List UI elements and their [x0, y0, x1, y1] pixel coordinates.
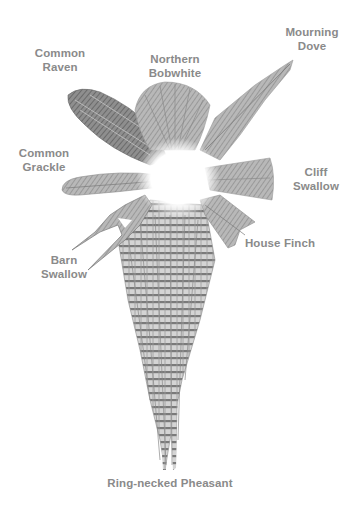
label-line: Ring-necked Pheasant [100, 476, 240, 490]
label-line: Grackle [14, 160, 74, 174]
label-common-raven: Common Raven [30, 46, 90, 74]
label-cliff-swallow: Cliff Swallow [286, 165, 346, 193]
label-line: Raven [30, 60, 90, 74]
ring-necked-pheasant-feather [118, 200, 215, 470]
label-line: Barn [34, 253, 94, 267]
label-barn-swallow: Barn Swallow [34, 253, 94, 281]
label-line: Cliff [286, 165, 346, 179]
label-northern-bobwhite: Northern Bobwhite [143, 52, 207, 80]
label-line: Mourning [280, 25, 344, 39]
label-ring-necked-pheasant: Ring-necked Pheasant [100, 476, 240, 490]
center-highlight [136, 138, 220, 218]
label-mourning-dove: Mourning Dove [280, 25, 344, 53]
label-house-finch: House Finch [240, 236, 320, 250]
label-line: Swallow [286, 179, 346, 193]
label-line: Common [14, 146, 74, 160]
label-line: Common [30, 46, 90, 60]
label-common-grackle: Common Grackle [14, 146, 74, 174]
label-line: Swallow [34, 267, 94, 281]
label-line: Northern [143, 52, 207, 66]
label-line: Bobwhite [143, 66, 207, 80]
mourning-dove-feather [200, 60, 293, 160]
label-line: Dove [280, 39, 344, 53]
label-line: House Finch [240, 236, 320, 250]
